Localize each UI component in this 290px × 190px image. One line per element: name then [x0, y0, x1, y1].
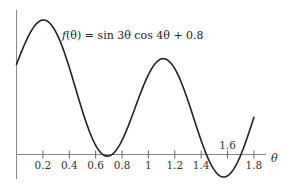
x-tick-label: 0.4	[61, 159, 78, 171]
x-tick-label: 0.6	[87, 159, 104, 171]
x-tick-label: 0.8	[114, 159, 131, 171]
x-tick-label: 1.4	[193, 159, 210, 171]
x-tick-label: 1.8	[246, 159, 263, 171]
function-rhs: = sin 3θ cos 4θ + 0.8	[81, 29, 203, 42]
x-tick-label: 1.6	[219, 139, 236, 151]
x-axis-label: θ	[271, 152, 278, 165]
function-curve	[17, 20, 254, 177]
function-arg: (θ)	[66, 29, 81, 42]
x-tick-label: 0.2	[35, 159, 52, 171]
function-plot: 0.20.40.60.811.21.41.61.8 θ f(θ) = sin 3…	[0, 0, 290, 190]
x-tick-label: 1.2	[166, 159, 183, 171]
x-tick-label: 1	[145, 159, 152, 171]
function-annotation: f(θ) = sin 3θ cos 4θ + 0.8	[61, 29, 204, 42]
